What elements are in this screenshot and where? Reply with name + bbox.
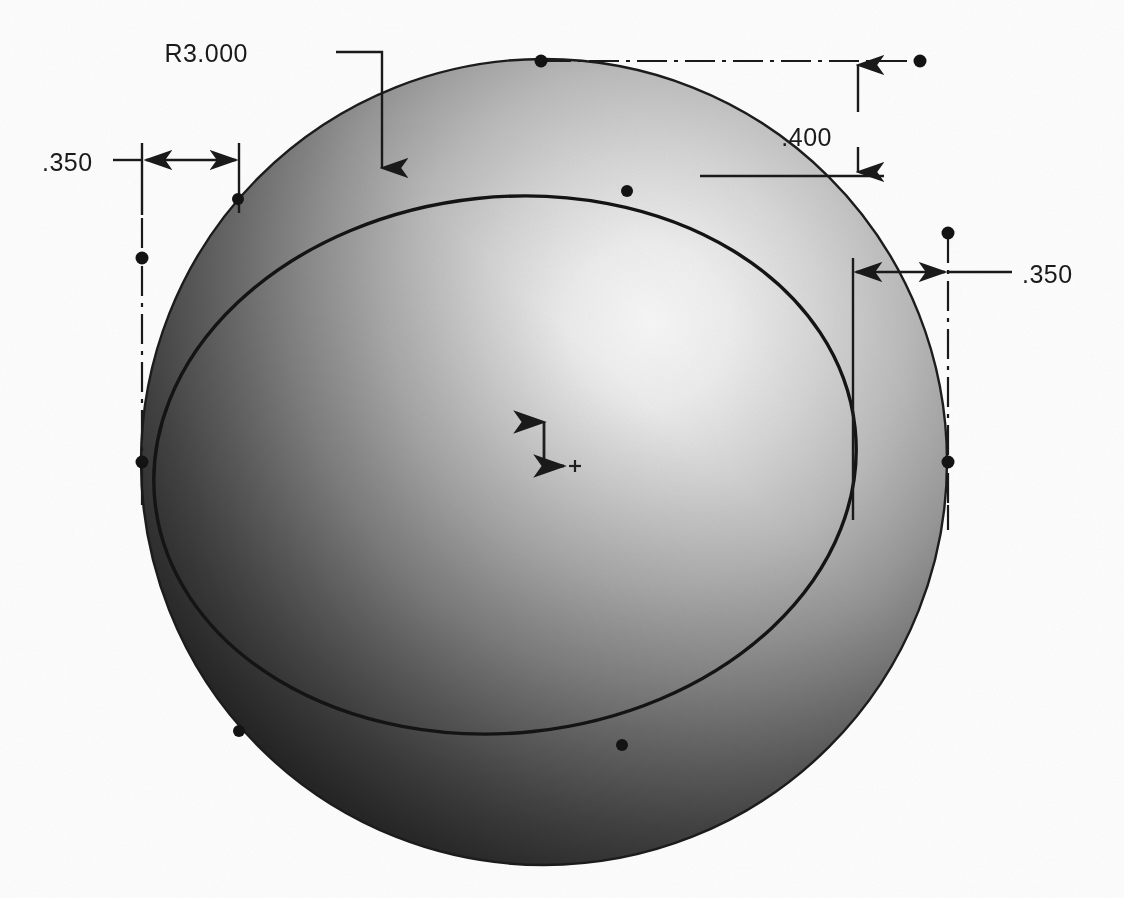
vertex-centerline-right-top (942, 227, 955, 240)
vertex-centerline-top-right (914, 55, 927, 68)
vertex-sphere-right (942, 456, 955, 469)
vertex-sphere-left (136, 456, 149, 469)
dimension-400-label: .400 (781, 123, 832, 151)
dimension-r3000-label: R3.000 (164, 39, 248, 67)
dimension-right-350-label: .350 (1022, 260, 1073, 288)
vertex-cut-top-left (232, 193, 244, 205)
vertex-cut-bottom-left (233, 725, 245, 737)
vertex-cut-bottom-right (616, 739, 628, 751)
vertex-sphere-top (535, 55, 548, 68)
vertex-centerline-left-top (136, 252, 149, 265)
dimension-left-350-label: .350 (42, 148, 93, 176)
dimension-left-350-group[interactable]: .350 (42, 143, 239, 215)
cad-drawing-canvas: R3.000 .350 .400 .350 (0, 0, 1124, 898)
vertex-cut-top-right (621, 185, 633, 197)
cad-drawing-svg: R3.000 .350 .400 .350 (0, 0, 1124, 898)
